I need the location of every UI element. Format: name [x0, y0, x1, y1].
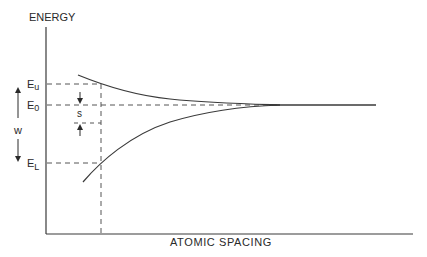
- energy-band-diagram: ENERGY ATOMIC SPACING Eu E0 EL w s: [0, 0, 427, 257]
- x-axis-label: ATOMIC SPACING: [170, 236, 272, 248]
- separation-label: s: [77, 108, 82, 119]
- lower-band-curve: [83, 105, 280, 182]
- level-label-center: E0: [27, 99, 39, 113]
- upper-band-curve: [78, 75, 280, 105]
- level-label-lower: EL: [27, 157, 39, 172]
- width-label: w: [13, 124, 22, 136]
- level-label-upper: Eu: [27, 78, 39, 92]
- y-axis-label: ENERGY: [29, 11, 76, 23]
